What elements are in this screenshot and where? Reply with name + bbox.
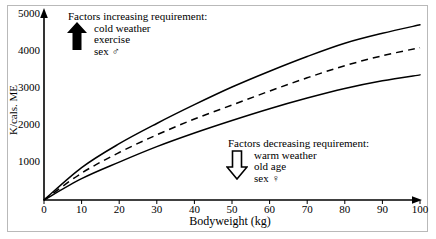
x-tick-label: 20 xyxy=(104,203,134,215)
y-tick-label: 4000 xyxy=(6,44,40,56)
arrow-up-icon xyxy=(66,22,88,52)
annotation-increasing-heading: Factors increasing requirement: xyxy=(68,11,207,23)
x-tick-label: 80 xyxy=(330,203,360,215)
annotation-decreasing-item: old age xyxy=(254,161,369,173)
x-tick-label: 10 xyxy=(67,203,97,215)
y-tick-label: 1000 xyxy=(6,155,40,167)
annotation-decreasing-item: sex ♀ xyxy=(254,173,369,185)
arrow-down-icon xyxy=(226,150,248,180)
y-axis xyxy=(40,8,48,200)
x-tick-label: 0 xyxy=(29,203,59,215)
x-tick-label: 90 xyxy=(367,203,397,215)
annotation-increasing: Factors increasing requirement: cold wea… xyxy=(68,11,207,57)
y-axis-label: K/cals. ME xyxy=(7,75,19,145)
annotation-decreasing: Factors decreasing requirement: warm wea… xyxy=(228,138,369,184)
annotation-increasing-item: sex ♂ xyxy=(94,46,207,58)
annotation-increasing-item: exercise xyxy=(94,34,207,46)
y-tick-label: 5000 xyxy=(6,7,40,19)
x-axis-label: Bodyweight (kg) xyxy=(140,214,320,229)
x-tick-label: 100 xyxy=(405,203,435,215)
annotation-decreasing-heading: Factors decreasing requirement: xyxy=(228,138,369,150)
